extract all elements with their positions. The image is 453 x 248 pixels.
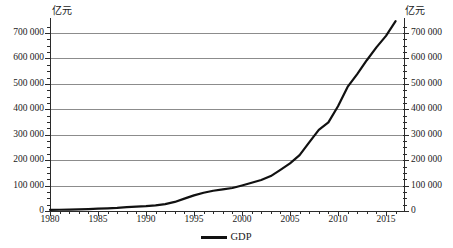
y-tick-label-left: 500 000 xyxy=(0,79,44,89)
legend-line-marker xyxy=(201,236,227,239)
gridline-y xyxy=(50,33,405,34)
y-tick-minor xyxy=(47,167,51,168)
y-tick-label-right: 700 000 xyxy=(411,28,442,38)
y-tick-minor xyxy=(403,71,407,72)
x-tick-minor xyxy=(127,211,128,214)
x-tick-minor xyxy=(156,211,157,214)
y-tick-minor xyxy=(403,141,407,142)
y-tick-minor xyxy=(403,65,407,66)
x-tick-minor xyxy=(348,211,349,214)
y-tick-minor xyxy=(47,192,51,193)
x-tick-label: 1980 xyxy=(30,215,70,225)
y-tick-label-left: 700 000 xyxy=(0,28,44,38)
y-tick-major xyxy=(403,211,409,212)
y-tick-major xyxy=(403,58,409,59)
y-tick-label-left: 600 000 xyxy=(0,53,44,63)
y-tick-major xyxy=(403,84,409,85)
legend-label-gdp: GDP xyxy=(230,232,251,243)
x-tick-minor xyxy=(261,211,262,214)
y-tick-major xyxy=(45,33,51,34)
y-tick-major xyxy=(45,135,51,136)
y-tick-minor xyxy=(403,147,407,148)
x-tick-label: 2010 xyxy=(318,215,358,225)
y-tick-minor xyxy=(403,167,407,168)
gdp-line-chart: 亿元 亿元 00100 000100 000200 000200 000300 … xyxy=(0,0,453,248)
gridline-y xyxy=(50,135,405,136)
x-tick-minor xyxy=(60,211,61,214)
x-tick-label: 2005 xyxy=(270,215,310,225)
y-tick-minor xyxy=(47,179,51,180)
y-tick-minor xyxy=(47,141,51,142)
y-tick-minor xyxy=(47,205,51,206)
x-tick-minor xyxy=(309,211,310,214)
y-axis-unit-right: 亿元 xyxy=(405,6,425,16)
y-tick-minor xyxy=(403,173,407,174)
gdp-series-line xyxy=(50,21,396,210)
y-tick-minor xyxy=(403,179,407,180)
y-tick-label-left: 300 000 xyxy=(0,130,44,140)
y-tick-minor xyxy=(47,154,51,155)
y-tick-major xyxy=(45,109,51,110)
x-tick-label: 1990 xyxy=(126,215,166,225)
y-tick-major xyxy=(45,160,51,161)
x-tick-minor xyxy=(204,211,205,214)
y-tick-minor xyxy=(403,128,407,129)
y-tick-minor xyxy=(403,103,407,104)
y-tick-label-right: 200 000 xyxy=(411,155,442,165)
chart-legend: GDP xyxy=(0,232,453,243)
x-tick-minor xyxy=(223,211,224,214)
x-tick-minor xyxy=(117,211,118,214)
y-tick-label-right: 300 000 xyxy=(411,130,442,140)
y-tick-minor xyxy=(47,52,51,53)
x-tick-minor xyxy=(300,211,301,214)
y-tick-minor xyxy=(47,103,51,104)
y-tick-minor xyxy=(47,128,51,129)
gridline-y xyxy=(50,58,405,59)
y-tick-minor xyxy=(47,147,51,148)
y-tick-major xyxy=(45,58,51,59)
y-tick-label-right: 0 xyxy=(411,206,416,216)
y-tick-minor xyxy=(47,46,51,47)
x-tick-minor xyxy=(175,211,176,214)
y-tick-minor xyxy=(403,78,407,79)
y-tick-minor xyxy=(403,192,407,193)
y-tick-minor xyxy=(403,39,407,40)
y-tick-label-left: 100 000 xyxy=(0,181,44,191)
y-tick-minor xyxy=(47,90,51,91)
y-tick-label-right: 400 000 xyxy=(411,104,442,114)
y-tick-minor xyxy=(47,78,51,79)
x-tick-minor xyxy=(213,211,214,214)
x-tick-label: 2015 xyxy=(366,215,406,225)
x-tick-minor xyxy=(357,211,358,214)
y-tick-minor xyxy=(47,198,51,199)
y-axis-unit-left: 亿元 xyxy=(52,6,72,16)
x-tick-label: 2000 xyxy=(222,215,262,225)
y-tick-major xyxy=(45,84,51,85)
y-tick-label-right: 500 000 xyxy=(411,79,442,89)
y-tick-minor xyxy=(47,39,51,40)
gridline-y xyxy=(50,186,405,187)
x-tick-minor xyxy=(108,211,109,214)
y-tick-minor xyxy=(403,97,407,98)
y-tick-minor xyxy=(403,90,407,91)
x-tick-label: 1985 xyxy=(78,215,118,225)
y-tick-minor xyxy=(47,65,51,66)
y-tick-minor xyxy=(47,173,51,174)
y-tick-minor xyxy=(403,52,407,53)
y-tick-minor xyxy=(403,122,407,123)
y-tick-major xyxy=(403,135,409,136)
gridline-y xyxy=(50,160,405,161)
y-tick-major xyxy=(403,160,409,161)
y-tick-label-right: 100 000 xyxy=(411,181,442,191)
y-tick-minor xyxy=(403,27,407,28)
y-tick-major xyxy=(45,186,51,187)
y-tick-minor xyxy=(47,116,51,117)
x-tick-minor xyxy=(165,211,166,214)
y-tick-major xyxy=(403,33,409,34)
x-tick-minor xyxy=(367,211,368,214)
x-tick-minor xyxy=(69,211,70,214)
y-tick-minor xyxy=(47,27,51,28)
x-tick-minor xyxy=(252,211,253,214)
y-tick-major xyxy=(403,109,409,110)
y-tick-label-left: 400 000 xyxy=(0,104,44,114)
